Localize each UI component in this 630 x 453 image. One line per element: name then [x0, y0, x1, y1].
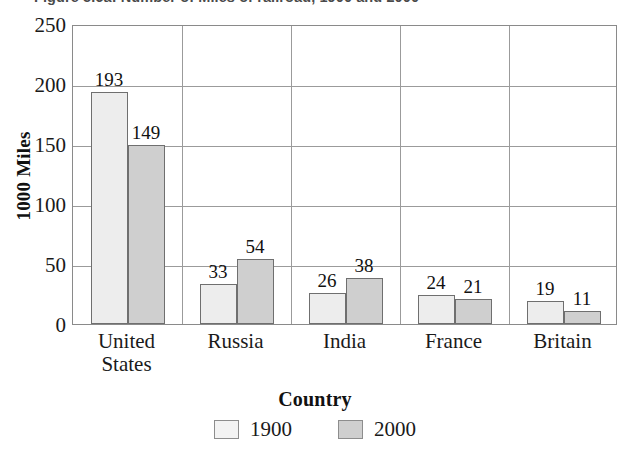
- bar-1900-india[interactable]: [309, 293, 346, 324]
- y-axis-tick-labels: 050100150200250: [18, 25, 66, 325]
- bar-2000-india[interactable]: [346, 278, 383, 324]
- x-axis-tick-label: Russia: [181, 330, 290, 353]
- bar-value-label: 33: [194, 262, 243, 281]
- bar-value-label: 21: [449, 277, 498, 296]
- bar-group: 2421: [400, 26, 509, 324]
- bar-1900-france[interactable]: [418, 295, 455, 324]
- x-axis-tick-labels: UnitedStatesRussiaIndiaFranceBritain: [72, 330, 617, 386]
- chart-legend: 19002000: [0, 419, 630, 440]
- x-axis-tick-label-line: States: [72, 353, 181, 376]
- y-axis-tick-label: 100: [18, 195, 66, 216]
- bar-value-label: 54: [231, 237, 280, 256]
- y-axis-tick-label: 150: [18, 135, 66, 156]
- y-axis-tick-label: 0: [18, 315, 66, 336]
- y-axis-tick-label: 200: [18, 75, 66, 96]
- bar-value-label: 193: [85, 70, 134, 89]
- bar-2000-united-states[interactable]: [128, 145, 165, 324]
- legend-entry-1900[interactable]: 1900: [214, 419, 292, 440]
- x-axis-tick-label: Britain: [508, 330, 617, 353]
- bar-2000-russia[interactable]: [237, 259, 274, 324]
- bar-value-label: 11: [558, 289, 607, 308]
- bar-value-label: 149: [122, 123, 171, 142]
- bar-chart: 1000 Miles 050100150200250 1931493354263…: [0, 0, 630, 453]
- plot-area: 1931493354263824211911: [72, 25, 617, 325]
- bar-value-label: 38: [340, 256, 389, 275]
- y-axis-tick-label: 250: [18, 15, 66, 36]
- legend-entry-2000[interactable]: 2000: [338, 419, 416, 440]
- bar-group: 193149: [73, 26, 182, 324]
- bar-2000-france[interactable]: [455, 299, 492, 324]
- bar-group: 2638: [291, 26, 400, 324]
- x-axis-tick-label-line: Russia: [181, 330, 290, 353]
- y-axis-tick-label: 50: [18, 255, 66, 276]
- x-axis-tick-label-line: India: [290, 330, 399, 353]
- x-axis-title: Country: [0, 388, 630, 411]
- bar-2000-britain[interactable]: [564, 311, 601, 324]
- bar-group: 1911: [509, 26, 618, 324]
- x-axis-tick-label: France: [399, 330, 508, 353]
- bar-group: 3354: [182, 26, 291, 324]
- x-axis-tick-label: India: [290, 330, 399, 353]
- legend-label-2000: 2000: [374, 419, 416, 440]
- x-axis-tick-label-line: United: [72, 330, 181, 353]
- x-axis-tick-label: UnitedStates: [72, 330, 181, 375]
- legend-swatch-2000: [338, 420, 363, 439]
- x-axis-tick-label-line: Britain: [508, 330, 617, 353]
- legend-label-1900: 1900: [250, 419, 292, 440]
- bar-1900-russia[interactable]: [200, 284, 237, 324]
- x-axis-tick-label-line: France: [399, 330, 508, 353]
- legend-swatch-1900: [214, 420, 239, 439]
